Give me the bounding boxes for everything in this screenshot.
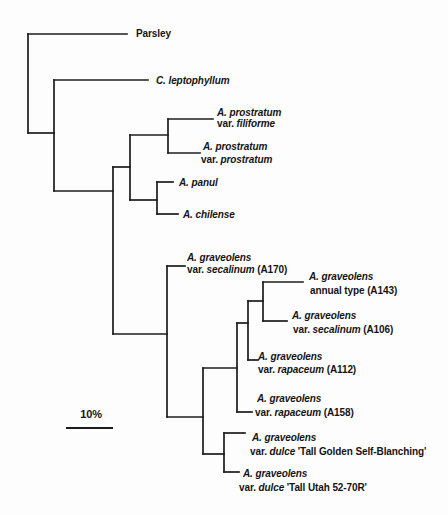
label-tgsb-1: A. graveolens xyxy=(251,432,317,443)
phylogeny-canvas: ParsleyC. leptophyllumA. prostratumvar. … xyxy=(0,0,448,515)
label-a170-1: A. graveolens xyxy=(186,252,252,263)
label-filiforme-1: A. prostratum xyxy=(216,107,281,118)
label-filiforme-2: var. filiforme xyxy=(217,118,276,129)
label-a158-2: var. rapaceum (A158) xyxy=(255,407,354,418)
label-a106-1: A. graveolens xyxy=(291,310,357,321)
label-a112-2: var. rapaceum (A112) xyxy=(258,364,356,375)
label-a170-2: var. secalinum (A170) xyxy=(187,264,287,275)
scale-bar: 10% xyxy=(66,408,113,428)
label-leptophyllum: C. leptophyllum xyxy=(156,75,230,86)
label-a143-1: A. graveolens xyxy=(308,271,374,282)
tree-labels-layer: ParsleyC. leptophyllumA. prostratumvar. … xyxy=(136,28,426,493)
label-a158-1: A. graveolens xyxy=(256,393,322,404)
label-prostratum-2: var. prostratum xyxy=(201,154,273,165)
label-tgsb-2: var. dulce 'Tall Golden Self-Blanching' xyxy=(250,446,426,457)
label-a106-2: var. secalinum (A106) xyxy=(293,324,393,335)
label-prostratum-1: A. prostratum xyxy=(202,141,267,152)
label-a112-1: A. graveolens xyxy=(257,351,323,362)
label-parsley: Parsley xyxy=(136,28,171,39)
phylogeny-figure: ParsleyC. leptophyllumA. prostratumvar. … xyxy=(0,0,448,515)
label-utah-1: A. graveolens xyxy=(242,468,308,479)
label-a143-2: annual type (A143) xyxy=(310,285,397,296)
scale-bar-label: 10% xyxy=(80,408,102,420)
label-panul: A. panul xyxy=(178,177,218,188)
label-utah-2: var. dulce 'Tall Utah 52-70R' xyxy=(239,482,367,493)
label-chilense: A. chilense xyxy=(182,209,235,220)
